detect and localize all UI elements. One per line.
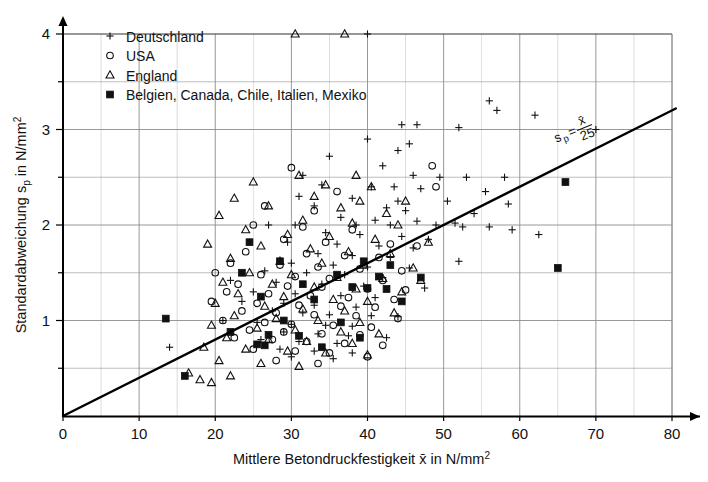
data-point-square <box>318 344 325 351</box>
data-point-plus <box>535 231 542 238</box>
scatter-plot-svg: 01020304050607080 1234 sp=x̄25 Deutschla… <box>0 0 708 482</box>
data-point-square <box>261 342 268 349</box>
y-tick-label: 2 <box>42 216 50 233</box>
data-point-triangle <box>348 339 356 346</box>
data-point-square <box>280 317 287 324</box>
data-point-triangle <box>106 71 114 78</box>
data-point-square <box>107 91 114 98</box>
trendline <box>63 108 676 416</box>
data-point-circle <box>391 296 398 303</box>
y-tick-labels: 1234 <box>42 25 50 329</box>
data-point-triangle <box>230 194 238 201</box>
data-point-square <box>383 286 390 293</box>
data-point-plus <box>372 217 379 224</box>
data-point-plus <box>531 112 538 119</box>
x-tick-labels: 01020304050607080 <box>59 425 681 442</box>
x-tick-label: 50 <box>435 425 452 442</box>
data-point-circle <box>292 348 299 355</box>
x-tick-label: 10 <box>131 425 148 442</box>
data-point-circle <box>414 243 421 250</box>
data-point-triangle <box>207 378 215 385</box>
data-point-triangle <box>356 197 364 204</box>
y-title-exponent: 2 <box>12 116 23 122</box>
data-point-plus <box>482 188 489 195</box>
y-axis-title: Standardabweichung sp in N/mm2 <box>12 116 32 333</box>
data-point-triangle <box>341 307 349 314</box>
data-point-triangle <box>291 30 299 37</box>
data-point-triangle <box>337 328 345 335</box>
data-point-plus <box>349 252 356 259</box>
series-triangle <box>185 30 433 386</box>
data-point-triangle <box>242 345 250 352</box>
data-point-plus <box>398 233 405 240</box>
data-point-square <box>254 341 261 348</box>
legend-item-square: Belgien, Canada, Chile, Italien, Mexiko <box>107 87 367 103</box>
data-point-circle <box>379 342 386 349</box>
data-point-circle <box>311 311 318 318</box>
data-point-triangle <box>234 290 242 297</box>
data-point-triangle <box>242 226 250 233</box>
data-point-circle <box>368 324 375 331</box>
data-point-triangle <box>284 230 292 237</box>
data-point-triangle <box>230 312 238 319</box>
x-tick-label: 80 <box>664 425 681 442</box>
data-point-circle <box>341 252 348 259</box>
y-tick-label: 4 <box>42 25 50 42</box>
data-point-square <box>417 274 424 281</box>
x-axis-arrow <box>690 412 700 421</box>
data-point-plus <box>292 221 299 228</box>
data-point-plus <box>349 195 356 202</box>
data-point-triangle <box>207 321 215 328</box>
data-point-circle <box>239 308 246 315</box>
data-point-plus <box>352 304 359 311</box>
data-point-circle <box>235 281 242 288</box>
data-point-triangle <box>219 278 227 285</box>
data-point-triangle <box>299 216 307 223</box>
data-point-plus <box>326 311 333 318</box>
data-point-circle <box>353 312 360 319</box>
data-point-circle <box>349 226 356 233</box>
data-point-square <box>162 315 169 322</box>
data-point-plus <box>333 340 340 347</box>
data-point-square <box>238 269 245 276</box>
data-point-circle <box>246 327 253 334</box>
x-title-main: Mittlere Betondruckfestigkeit <box>233 451 419 467</box>
data-point-plus <box>486 97 493 104</box>
data-point-circle <box>372 304 379 311</box>
data-point-triangle <box>390 309 398 316</box>
data-point-plus <box>364 135 371 142</box>
legend: DeutschlandUSAEnglandBelgien, Canada, Ch… <box>106 29 367 104</box>
data-point-circle <box>387 241 394 248</box>
data-point-plus <box>505 200 512 207</box>
data-point-plus <box>375 242 382 249</box>
data-point-triangle <box>329 295 337 302</box>
data-point-plus <box>356 231 363 238</box>
data-point-plus <box>417 185 424 192</box>
data-point-circle <box>398 268 405 275</box>
data-point-circle <box>315 360 322 367</box>
data-point-circle <box>429 162 436 169</box>
data-point-plus <box>349 349 356 356</box>
data-point-triangle <box>196 376 204 383</box>
chart-figure: 01020304050607080 1234 sp=x̄25 Deutschla… <box>0 0 708 482</box>
data-point-plus <box>303 269 310 276</box>
data-point-circle <box>223 289 230 296</box>
data-point-triangle <box>246 269 254 276</box>
data-point-plus <box>227 277 234 284</box>
data-point-triangle <box>215 356 223 363</box>
data-point-plus <box>292 290 299 297</box>
data-point-square <box>364 285 371 292</box>
data-point-plus <box>391 183 398 190</box>
data-point-triangle <box>383 209 391 216</box>
data-point-triangle <box>280 292 288 299</box>
legend-label: England <box>126 68 177 84</box>
data-point-plus <box>421 284 428 291</box>
data-point-circle <box>284 283 291 290</box>
data-point-triangle <box>226 372 234 379</box>
data-point-plus <box>383 334 390 341</box>
data-point-circle <box>315 264 322 271</box>
legend-item-plus: Deutschland <box>106 29 203 45</box>
data-point-plus <box>345 332 352 339</box>
data-point-triangle <box>341 30 349 37</box>
legend-label: Belgien, Canada, Chile, Italien, Mexiko <box>126 87 367 103</box>
